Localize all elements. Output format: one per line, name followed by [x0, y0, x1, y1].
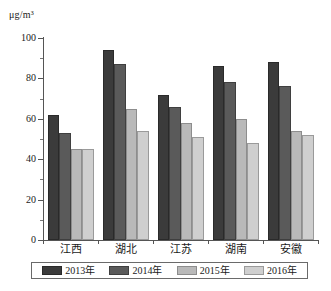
bar-安徽-2013年 [268, 62, 280, 240]
legend-swatch-icon-2015年 [177, 266, 197, 275]
y-minor-tick-10 [40, 220, 43, 221]
x-category-label-湖北: 湖北 [115, 243, 137, 256]
x-category-label-江西: 江西 [60, 243, 82, 256]
y-minor-tick-70 [40, 99, 43, 100]
bar-江西-2015年 [71, 149, 83, 240]
y-tick-label-60: 60 [26, 114, 36, 124]
x-tick-4 [318, 240, 319, 244]
y-tick-label-40: 40 [26, 154, 36, 164]
x-tick-origin [43, 240, 44, 244]
bar-江苏-2016年 [192, 137, 204, 240]
y-tick-label-0: 0 [31, 235, 36, 245]
legend-item-2013年[interactable]: 2013年 [42, 265, 95, 276]
y-tick-label-80: 80 [26, 73, 36, 83]
bar-江西-2013年 [48, 115, 60, 240]
bar-湖南-2014年 [224, 82, 236, 240]
x-axis-line [43, 240, 319, 241]
x-category-label-湖南: 湖南 [225, 243, 247, 256]
y-tick-100 [38, 38, 43, 39]
x-category-label-江苏: 江苏 [170, 243, 192, 256]
bar-江苏-2014年 [169, 107, 181, 240]
chart-legend: 2013年2014年2015年2016年 [31, 262, 308, 279]
legend-swatch-icon-2013年 [42, 266, 62, 275]
x-category-label-安徽: 安徽 [280, 243, 302, 256]
y-tick-40 [38, 159, 43, 160]
y-tick-label-100: 100 [21, 33, 36, 43]
legend-swatch-icon-2016年 [244, 266, 264, 275]
x-tick-0 [98, 240, 99, 244]
y-tick-20 [38, 200, 43, 201]
legend-item-2014年[interactable]: 2014年 [109, 265, 162, 276]
bar-安徽-2016年 [302, 135, 314, 240]
legend-label-2015年: 2015年 [200, 265, 230, 276]
x-tick-3 [263, 240, 264, 244]
y-minor-tick-30 [40, 179, 43, 180]
bar-江西-2014年 [59, 133, 71, 240]
y-minor-tick-50 [40, 139, 43, 140]
y-tick-label-20: 20 [26, 195, 36, 205]
x-tick-1 [153, 240, 154, 244]
x-tick-2 [208, 240, 209, 244]
bar-湖北-2015年 [126, 109, 138, 240]
legend-label-2013年: 2013年 [65, 265, 95, 276]
bar-湖北-2016年 [137, 131, 149, 240]
bar-湖北-2014年 [114, 64, 126, 240]
y-minor-tick-90 [40, 58, 43, 59]
legend-item-2015年[interactable]: 2015年 [177, 265, 230, 276]
bar-湖南-2016年 [247, 143, 259, 240]
y-axis-unit-label: μg/m³ [9, 9, 34, 20]
bar-湖北-2013年 [103, 50, 115, 240]
y-tick-80 [38, 78, 43, 79]
bar-湖南-2013年 [213, 66, 225, 240]
legend-label-2014年: 2014年 [132, 265, 162, 276]
bar-湖南-2015年 [236, 119, 248, 240]
plot-area: 020406080100 [43, 38, 318, 240]
bar-安徽-2015年 [291, 131, 303, 240]
bar-安徽-2014年 [279, 86, 291, 240]
bar-江西-2016年 [82, 149, 94, 240]
bar-chart: μg/m³ 020406080100 江西湖北江苏湖南安徽 2013年2014年… [0, 0, 331, 291]
legend-swatch-icon-2014年 [109, 266, 129, 275]
legend-item-2016年[interactable]: 2016年 [244, 265, 297, 276]
bar-江苏-2013年 [158, 95, 170, 240]
legend-label-2016年: 2016年 [267, 265, 297, 276]
bar-江苏-2015年 [181, 123, 193, 240]
y-tick-60 [38, 119, 43, 120]
